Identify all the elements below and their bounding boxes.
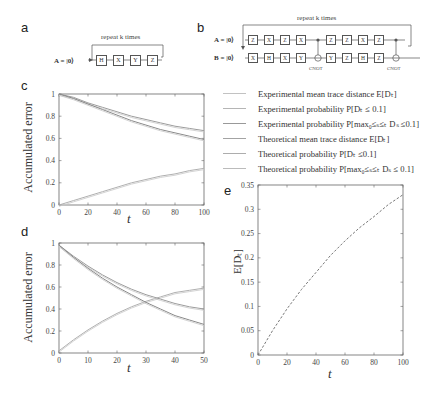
svg-text:0.2: 0.2 (46, 327, 56, 336)
svg-text:20: 20 (283, 358, 291, 367)
svg-text:0.8: 0.8 (46, 261, 56, 270)
svg-text:0.8: 0.8 (46, 112, 56, 121)
svg-text:40: 40 (171, 356, 179, 365)
svg-text:0: 0 (51, 349, 55, 358)
svg-text:100: 100 (198, 208, 210, 217)
svg-text:40: 40 (113, 208, 121, 217)
svg-text:80: 80 (171, 208, 179, 217)
svg-text:0.2: 0.2 (46, 178, 56, 187)
svg-text:0: 0 (256, 358, 260, 367)
svg-text:1: 1 (51, 90, 55, 99)
svg-text:0: 0 (57, 208, 61, 217)
chart-c: 02040608010000.20.40.60.81 (46, 90, 210, 218)
svg-text:20: 20 (84, 208, 92, 217)
svg-text:100: 100 (397, 358, 409, 367)
svg-text:40: 40 (312, 358, 320, 367)
svg-text:60: 60 (142, 208, 150, 217)
svg-text:80: 80 (370, 358, 378, 367)
svg-text:10: 10 (84, 356, 92, 365)
svg-text:0.2: 0.2 (245, 253, 255, 262)
chart-d: 0102030405000.20.40.60.81 (46, 239, 208, 366)
charts-canvas: 02040608010000.20.40.60.810102030405000.… (0, 0, 432, 397)
svg-text:0.6: 0.6 (46, 283, 56, 292)
svg-text:60: 60 (341, 358, 349, 367)
chart-e: 02040608010000.050.10.150.20.250.30.35 (241, 181, 409, 368)
svg-text:0.35: 0.35 (241, 181, 254, 190)
svg-text:0.15: 0.15 (241, 278, 254, 287)
svg-text:0.05: 0.05 (241, 326, 254, 335)
svg-text:0.1: 0.1 (245, 302, 255, 311)
svg-text:20: 20 (113, 356, 121, 365)
svg-text:30: 30 (142, 356, 150, 365)
svg-text:0: 0 (51, 201, 55, 210)
svg-text:1: 1 (51, 239, 55, 248)
svg-text:0.6: 0.6 (46, 134, 56, 143)
svg-text:0.25: 0.25 (241, 229, 254, 238)
svg-text:0: 0 (250, 351, 254, 360)
svg-text:0: 0 (57, 356, 61, 365)
svg-text:0.4: 0.4 (46, 156, 56, 165)
svg-text:0.3: 0.3 (245, 205, 255, 214)
svg-text:50: 50 (200, 356, 208, 365)
svg-text:0.4: 0.4 (46, 305, 56, 314)
